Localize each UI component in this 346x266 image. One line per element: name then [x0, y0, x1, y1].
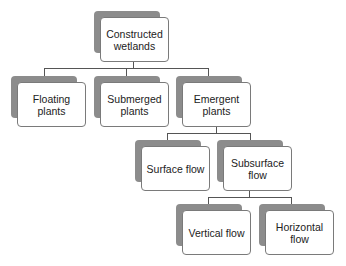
node-floating-plants: Floating plants [17, 82, 86, 127]
node-box: Vertical flow [182, 210, 251, 255]
node-subsurface-flow: Subsurface flow [223, 146, 292, 191]
node-label: Surface flow [142, 163, 209, 175]
node-box: Floating plants [17, 82, 86, 127]
node-emergent-plants: Emergent plants [182, 82, 251, 127]
node-horizontal-flow: Horizontal flow [265, 210, 334, 255]
node-label: Submerged plants [101, 93, 168, 117]
node-box: Constructed wetlands [100, 17, 169, 62]
node-label: Emergent plants [183, 93, 250, 117]
node-box: Subsurface flow [223, 146, 292, 191]
node-box: Surface flow [141, 146, 210, 191]
node-label: Constructed wetlands [101, 28, 168, 52]
connector-to-subsurface [250, 133, 251, 140]
node-label: Horizontal flow [266, 221, 333, 245]
node-box: Horizontal flow [265, 210, 334, 255]
node-constructed-wetlands: Constructed wetlands [100, 17, 169, 62]
connector-to-floating [44, 68, 45, 76]
node-submerged-plants: Submerged plants [100, 82, 169, 127]
connector-level3-bar [208, 197, 292, 198]
node-label: Floating plants [18, 93, 85, 117]
node-vertical-flow: Vertical flow [182, 210, 251, 255]
connector-level2-bar [167, 133, 251, 134]
connector-to-submerged [126, 68, 127, 76]
connector-to-surface [167, 133, 168, 140]
node-label: Vertical flow [183, 227, 250, 239]
node-box: Emergent plants [182, 82, 251, 127]
node-box: Submerged plants [100, 82, 169, 127]
node-label: Subsurface flow [224, 157, 291, 181]
connector-to-emergent [208, 68, 209, 76]
node-surface-flow: Surface flow [141, 146, 210, 191]
